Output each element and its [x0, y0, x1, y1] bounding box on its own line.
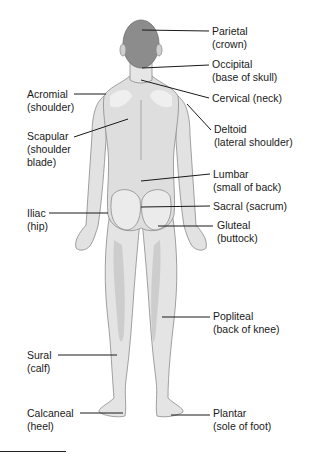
label-term: Parietal	[212, 25, 248, 38]
footnote-divider	[0, 451, 66, 452]
label-term: Plantar	[213, 407, 271, 420]
anatomy-diagram: Parietal (crown) Occipital (base of skul…	[0, 0, 313, 454]
label-desc: (sole of foot)	[213, 420, 271, 433]
label-desc: (lateral shoulder)	[214, 136, 293, 149]
label-sacral: Sacral (sacrum)	[213, 200, 287, 213]
label-sural: Sural (calf)	[27, 349, 52, 375]
label-desc-line2: blade)	[27, 156, 71, 169]
label-desc: (sacrum)	[246, 200, 287, 212]
label-term: Occipital	[212, 58, 277, 71]
gluteal-region	[111, 190, 141, 230]
leader-deltoid	[187, 104, 211, 130]
label-iliac: Iliac (hip)	[27, 207, 48, 233]
label-scapular: Scapular (shoulder blade)	[27, 130, 71, 169]
label-term: Lumbar	[213, 168, 281, 181]
body-figure	[76, 20, 207, 417]
label-desc: (shoulder)	[27, 101, 74, 114]
label-term: Scapular	[27, 130, 71, 143]
label-desc: (crown)	[212, 38, 248, 51]
label-term: Sural	[27, 349, 52, 362]
label-desc-line1: (shoulder	[27, 143, 71, 156]
gluteal-region	[142, 190, 172, 230]
label-term: Calcaneal	[27, 407, 74, 420]
label-term: Sacral	[213, 200, 243, 212]
ear-left	[120, 44, 126, 56]
label-parietal: Parietal (crown)	[212, 25, 248, 51]
label-cervical: Cervical (neck)	[212, 92, 282, 105]
label-plantar: Plantar (sole of foot)	[213, 407, 271, 433]
label-lumbar: Lumbar (small of back)	[213, 168, 281, 194]
label-desc: (calf)	[27, 362, 52, 375]
right-leg	[142, 212, 183, 417]
label-popliteal: Popliteal (back of knee)	[213, 310, 280, 336]
left-arm	[76, 95, 106, 250]
label-term: Iliac	[27, 207, 48, 220]
label-gluteal: Gluteal (buttock)	[217, 219, 258, 245]
label-desc: (heel)	[27, 420, 74, 433]
label-term: Gluteal	[217, 219, 258, 232]
label-desc: (base of skull)	[212, 71, 277, 84]
label-calcaneal: Calcaneal (heel)	[27, 407, 74, 433]
head	[123, 20, 159, 68]
label-desc: (neck)	[253, 92, 282, 104]
label-desc: (hip)	[27, 220, 48, 233]
label-desc: (buttock)	[217, 232, 258, 245]
label-term: Acromial	[27, 88, 74, 101]
label-term: Deltoid	[214, 123, 293, 136]
label-term: Popliteal	[213, 310, 280, 323]
label-acromial: Acromial (shoulder)	[27, 88, 74, 114]
label-desc: (small of back)	[213, 181, 281, 194]
right-arm	[176, 95, 206, 250]
label-occipital: Occipital (base of skull)	[212, 58, 277, 84]
ear-right	[156, 44, 162, 56]
label-deltoid: Deltoid (lateral shoulder)	[214, 123, 293, 149]
label-desc: (back of knee)	[213, 323, 280, 336]
label-term: Cervical	[212, 92, 250, 104]
